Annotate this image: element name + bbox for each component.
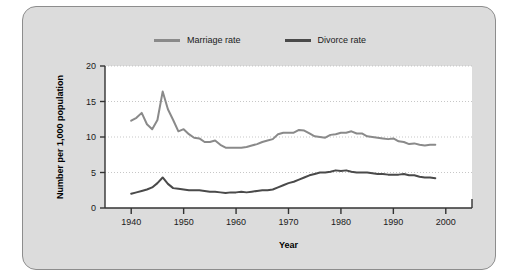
x-axis-title: Year xyxy=(279,240,299,250)
y-tick-label-0: 0 xyxy=(91,203,96,213)
x-tick-label-1970: 1970 xyxy=(278,217,298,227)
chart-panel: Marriage rate Divorce rate 0510152019401… xyxy=(22,6,496,270)
x-tick-label-1940: 1940 xyxy=(121,217,141,227)
y-axis-title: Number per 1,000 population xyxy=(55,75,65,199)
x-tick-label-1950: 1950 xyxy=(174,217,194,227)
y-tick-label-20: 20 xyxy=(86,61,96,71)
x-tick-label-1990: 1990 xyxy=(383,217,403,227)
x-tick-label-2000: 2000 xyxy=(436,217,456,227)
x-tick-label-1960: 1960 xyxy=(226,217,246,227)
y-tick-label-15: 15 xyxy=(86,97,96,107)
y-tick-label-10: 10 xyxy=(86,132,96,142)
x-tick-label-1980: 1980 xyxy=(331,217,351,227)
plot-area: 051015201940195019601970198019902000 Num… xyxy=(23,7,497,271)
y-tick-label-5: 5 xyxy=(91,168,96,178)
line-chart-svg: 051015201940195019601970198019902000 Num… xyxy=(23,7,497,271)
